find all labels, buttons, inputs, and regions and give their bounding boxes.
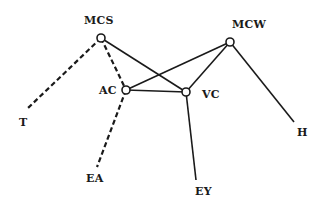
node-mcs [97, 34, 105, 42]
node-ac [122, 86, 130, 94]
edge-ac-ea [97, 90, 126, 167]
node-label-ea: EA [86, 172, 104, 185]
node-label-mcw: MCW [232, 18, 266, 31]
node-mcw [226, 38, 234, 46]
network-diagram: MCSACVCMCWTEAEYH [0, 0, 323, 207]
node-label-vc: VC [202, 88, 220, 101]
node-label-mcs: MCS [84, 14, 114, 27]
node-label-h: H [297, 126, 308, 139]
edge-vc-mcw [186, 42, 230, 92]
node-label-ey: EY [195, 185, 212, 198]
edge-ac-mcw [126, 42, 230, 90]
node-label-t: T [19, 116, 28, 129]
edge-ac-vc [126, 90, 186, 92]
edge-mcs-t [28, 38, 101, 108]
node-vc [182, 88, 190, 96]
edge-vc-ey [186, 92, 196, 180]
edge-mcw-h [230, 42, 294, 122]
node-label-ac: AC [99, 84, 117, 97]
diagram-edges [0, 0, 323, 207]
